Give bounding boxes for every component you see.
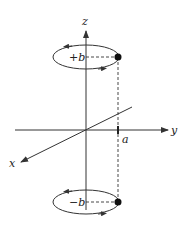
x-axis-label: x: [9, 157, 16, 170]
upper-charge-dot: [115, 54, 122, 61]
x-axis: [21, 107, 132, 162]
y-axis-label: y: [170, 124, 178, 137]
lower-charge-dot: [115, 199, 122, 206]
y-tick-label-a: a: [122, 133, 129, 146]
coordinate-diagram: z y x a +b −b: [0, 0, 187, 229]
upper-current-loop: +b: [53, 45, 122, 69]
lower-current-loop: −b: [53, 190, 122, 214]
upper-loop-label: +b: [69, 51, 85, 64]
z-axis-label: z: [81, 15, 88, 28]
lower-loop-label: −b: [69, 196, 85, 209]
